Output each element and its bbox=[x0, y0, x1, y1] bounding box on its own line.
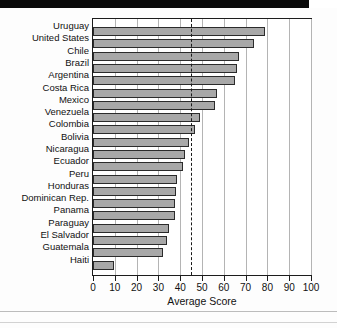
category-label: Nicaragua bbox=[1, 144, 89, 154]
category-label: Chile bbox=[1, 46, 89, 56]
category-label: Panama bbox=[1, 205, 89, 215]
bar-paraguay[interactable] bbox=[93, 224, 169, 233]
bar-row bbox=[93, 26, 313, 38]
bar-united-states[interactable] bbox=[93, 39, 254, 48]
category-label: Costa Rica bbox=[1, 83, 89, 93]
x-tick-label: 70 bbox=[240, 282, 251, 293]
bar-row bbox=[93, 247, 313, 259]
category-label: Ecuador bbox=[1, 156, 89, 166]
bar-row bbox=[93, 38, 313, 50]
bar-honduras[interactable] bbox=[93, 187, 176, 196]
x-tick-50 bbox=[202, 276, 203, 281]
category-label: United States bbox=[1, 33, 89, 43]
x-tick-label: 80 bbox=[262, 282, 273, 293]
bar-row bbox=[93, 149, 313, 161]
plot-area bbox=[92, 18, 312, 276]
x-tick-label: 50 bbox=[196, 282, 207, 293]
reference-line bbox=[191, 19, 192, 275]
x-tick-0 bbox=[93, 276, 94, 281]
x-tick-30 bbox=[158, 276, 159, 281]
bar-ecuador[interactable] bbox=[93, 162, 183, 171]
x-tick-label: 20 bbox=[131, 282, 142, 293]
x-tick-label: 0 bbox=[90, 282, 96, 293]
bar-row bbox=[93, 198, 313, 210]
category-label: Bolivia bbox=[1, 132, 89, 142]
x-tick-20 bbox=[137, 276, 138, 281]
bar-bolivia[interactable] bbox=[93, 138, 189, 147]
x-tick-10 bbox=[115, 276, 116, 281]
category-label: Guatemala bbox=[1, 242, 89, 252]
category-label: Uruguay bbox=[1, 21, 89, 31]
bar-uruguay[interactable] bbox=[93, 27, 265, 36]
bar-row bbox=[93, 100, 313, 112]
category-label: Argentina bbox=[1, 70, 89, 80]
category-label: Brazil bbox=[1, 58, 89, 68]
bar-row bbox=[93, 112, 313, 124]
bar-colombia[interactable] bbox=[93, 125, 195, 134]
category-label: Peru bbox=[1, 169, 89, 179]
bar-row bbox=[93, 223, 313, 235]
x-tick-label: 60 bbox=[218, 282, 229, 293]
bar-row bbox=[93, 88, 313, 100]
page-divider-1 bbox=[0, 311, 337, 312]
top-black-strip bbox=[0, 0, 337, 8]
category-axis-labels: UruguayUnited StatesChileBrazilArgentina… bbox=[0, 18, 89, 276]
x-tick-label: 100 bbox=[303, 282, 320, 293]
x-tick-label: 30 bbox=[153, 282, 164, 293]
bar-chile[interactable] bbox=[93, 52, 239, 61]
x-tick-label: 40 bbox=[175, 282, 186, 293]
category-label: Dominican Rep. bbox=[1, 193, 89, 203]
bar-row bbox=[93, 51, 313, 63]
bar-mexico[interactable] bbox=[93, 101, 215, 110]
bar-haiti[interactable] bbox=[93, 261, 114, 270]
bar-brazil[interactable] bbox=[93, 64, 237, 73]
bar-row bbox=[93, 235, 313, 247]
bar-row bbox=[93, 174, 313, 186]
bar-row bbox=[93, 137, 313, 149]
category-label: Paraguay bbox=[1, 218, 89, 228]
category-label: Haiti bbox=[1, 255, 89, 265]
bar-chart: UruguayUnited StatesChileBrazilArgentina… bbox=[0, 8, 337, 311]
bar-row bbox=[93, 260, 313, 272]
x-tick-100 bbox=[311, 276, 312, 281]
x-tick-80 bbox=[267, 276, 268, 281]
category-label: Honduras bbox=[1, 181, 89, 191]
bar-el-salvador[interactable] bbox=[93, 236, 167, 245]
category-label: Venezuela bbox=[1, 107, 89, 117]
x-tick-60 bbox=[224, 276, 225, 281]
page-canvas: UruguayUnited StatesChileBrazilArgentina… bbox=[0, 0, 337, 328]
category-label: El Salvador bbox=[1, 230, 89, 240]
bar-costa-rica[interactable] bbox=[93, 89, 217, 98]
bar-nicaragua[interactable] bbox=[93, 150, 185, 159]
bar-dominican-rep[interactable] bbox=[93, 199, 175, 208]
x-tick-90 bbox=[289, 276, 290, 281]
bar-peru[interactable] bbox=[93, 175, 177, 184]
bar-panama[interactable] bbox=[93, 211, 175, 220]
x-tick-label: 90 bbox=[284, 282, 295, 293]
x-tick-label: 10 bbox=[109, 282, 120, 293]
bar-row bbox=[93, 161, 313, 173]
bar-row bbox=[93, 63, 313, 75]
bar-venezuela[interactable] bbox=[93, 113, 200, 122]
page-divider-2 bbox=[0, 322, 337, 323]
category-label: Colombia bbox=[1, 119, 89, 129]
bar-argentina[interactable] bbox=[93, 76, 235, 85]
bar-row bbox=[93, 186, 313, 198]
top-strip-right-gap bbox=[309, 0, 337, 8]
category-label: Mexico bbox=[1, 95, 89, 105]
bar-row bbox=[93, 210, 313, 222]
x-axis-title: Average Score bbox=[92, 295, 312, 307]
bar-row bbox=[93, 124, 313, 136]
x-tick-70 bbox=[246, 276, 247, 281]
x-tick-40 bbox=[180, 276, 181, 281]
bar-guatemala[interactable] bbox=[93, 248, 163, 257]
bar-row bbox=[93, 75, 313, 87]
